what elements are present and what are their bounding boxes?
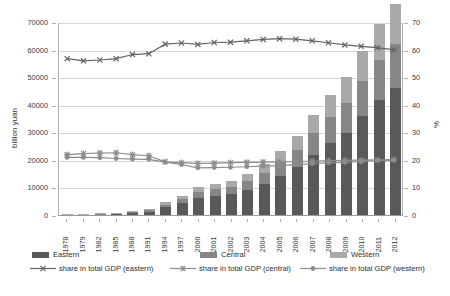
marker-circle <box>81 155 86 160</box>
marker-circle <box>179 162 184 167</box>
x-axis-tick: 2010 <box>354 233 370 251</box>
x-axis-tick-mark <box>83 219 84 222</box>
marker-circle <box>97 155 102 160</box>
x-axis-tick-mark <box>148 219 149 222</box>
x-axis-tick-mark <box>247 219 248 222</box>
marker-circle <box>375 158 380 163</box>
x-axis-tick: 1991 <box>140 233 156 251</box>
marker-circle <box>277 163 282 168</box>
marker-circle <box>244 164 249 169</box>
marker-circle <box>261 164 266 169</box>
x-axis-tick-mark <box>346 219 347 222</box>
x-axis-tick: 2012 <box>387 233 403 251</box>
legend-label: Eastern <box>53 250 79 259</box>
x-axis-tick: 2005 <box>272 233 288 251</box>
x-axis-tick: 2006 <box>288 233 304 251</box>
marker-circle <box>146 157 151 162</box>
y-axis-right-tick-label: 50 <box>412 74 420 81</box>
marker-circle <box>310 161 315 166</box>
legend-label: share in total GDP (western) <box>329 264 425 273</box>
x-axis-tick-mark <box>362 219 363 222</box>
x-axis-tick-mark <box>395 219 396 222</box>
legend-item[interactable]: Central <box>200 250 245 259</box>
y-axis-right-tick-label: 60 <box>412 47 420 54</box>
legend-item[interactable]: share in total GDP (western) <box>300 264 425 273</box>
chart-container: 010000200003000040000500006000070000 bil… <box>0 0 450 296</box>
x-axis-tick-mark <box>263 219 264 222</box>
marker-circle <box>342 160 347 165</box>
y-axis-right: 010203040506070 <box>406 23 446 216</box>
marker-circle <box>293 162 298 167</box>
x-axis-tick-mark <box>313 219 314 222</box>
y-axis-right-tick-label: 0 <box>412 212 416 219</box>
marker-asterisk <box>97 150 103 156</box>
legend-line-icon <box>30 264 56 273</box>
legend-label: share in total GDP (eastern) <box>59 264 153 273</box>
x-axis-tick: 2003 <box>239 233 255 251</box>
y-axis-right-tick-label: 40 <box>412 102 420 109</box>
y-axis-right-tick-mark <box>404 23 408 24</box>
y-axis-left-tick-mark <box>52 23 56 24</box>
legend-item[interactable]: Western <box>330 250 379 259</box>
y-axis-left-tick-label: 50000 <box>27 74 48 81</box>
x-axis-tick: 2009 <box>338 233 354 251</box>
x-axis-tick: 2011 <box>370 233 386 251</box>
x-axis-tick: 1985 <box>108 233 124 251</box>
y-axis-right-tick-mark <box>404 133 408 134</box>
chart-legend: EasternCentralWestern share in total GDP… <box>0 250 450 278</box>
x-axis: 1978197919821985198819911994199720002001… <box>58 219 403 251</box>
y-axis-right-tick-mark <box>404 216 408 217</box>
line-series-layer <box>59 23 402 215</box>
x-axis-tick-mark <box>296 219 297 222</box>
x-axis-tick-mark <box>231 219 232 222</box>
x-axis-tick: 1994 <box>157 233 173 251</box>
x-axis-tick: 1988 <box>124 233 140 251</box>
marker-asterisk <box>113 150 119 156</box>
marker-circle <box>114 156 119 161</box>
marker-circle <box>391 158 396 163</box>
y-axis-left-tick-mark <box>52 216 56 217</box>
y-axis-left-tick-mark <box>52 188 56 189</box>
marker-circle <box>212 165 217 170</box>
x-axis-tick-mark <box>378 219 379 222</box>
x-axis-tick: 2002 <box>223 233 239 251</box>
y-axis-right-tick-mark <box>404 51 408 52</box>
y-axis-left-tick-mark <box>52 78 56 79</box>
y-axis-left-tick-mark <box>52 133 56 134</box>
x-axis-tick: 2001 <box>206 233 222 251</box>
marker-circle <box>359 159 364 164</box>
legend-row-bars: EasternCentralWestern <box>0 250 450 264</box>
legend-line-icon <box>300 264 326 273</box>
legend-item[interactable]: Eastern <box>32 250 79 259</box>
plot-area <box>58 23 403 216</box>
y-axis-left-tick-mark <box>52 161 56 162</box>
legend-line-icon <box>170 264 196 273</box>
legend-row-lines: share in total GDP (eastern)share in tot… <box>0 264 450 278</box>
y-axis-left-tick-label: 20000 <box>27 157 48 164</box>
y-axis-left-tick-label: 70000 <box>27 19 48 26</box>
y-axis-right-tick-label: 20 <box>412 157 420 164</box>
y-axis-left-tick-label: 60000 <box>27 47 48 54</box>
y-axis-right-tick-mark <box>404 78 408 79</box>
x-axis-tick: 1978 <box>58 233 74 251</box>
legend-item[interactable]: share in total GDP (central) <box>170 264 291 273</box>
marker-circle <box>228 165 233 170</box>
legend-item[interactable]: share in total GDP (eastern) <box>30 264 153 273</box>
x-axis-tick: 1979 <box>75 233 91 251</box>
marker-circle <box>163 160 168 165</box>
y-axis-left-tick-label: 10000 <box>27 184 48 191</box>
legend-swatch-icon <box>200 252 217 258</box>
marker-circle <box>326 160 331 165</box>
y-axis-right-tick-mark <box>404 188 408 189</box>
y-axis-left-tick-label: 30000 <box>27 129 48 136</box>
y-axis-left-tick-label: 0 <box>44 212 48 219</box>
y-axis-left-tick-mark <box>52 106 56 107</box>
x-axis-tick-mark <box>198 219 199 222</box>
y-axis-left-title: billion yuan <box>10 108 19 148</box>
x-axis-tick-mark <box>280 219 281 222</box>
y-axis-right-tick-label: 70 <box>412 19 420 26</box>
marker-circle <box>65 155 70 160</box>
marker-asterisk <box>227 159 233 165</box>
y-axis-left-tick-label: 40000 <box>27 102 48 109</box>
y-axis-right-tick-mark <box>404 161 408 162</box>
